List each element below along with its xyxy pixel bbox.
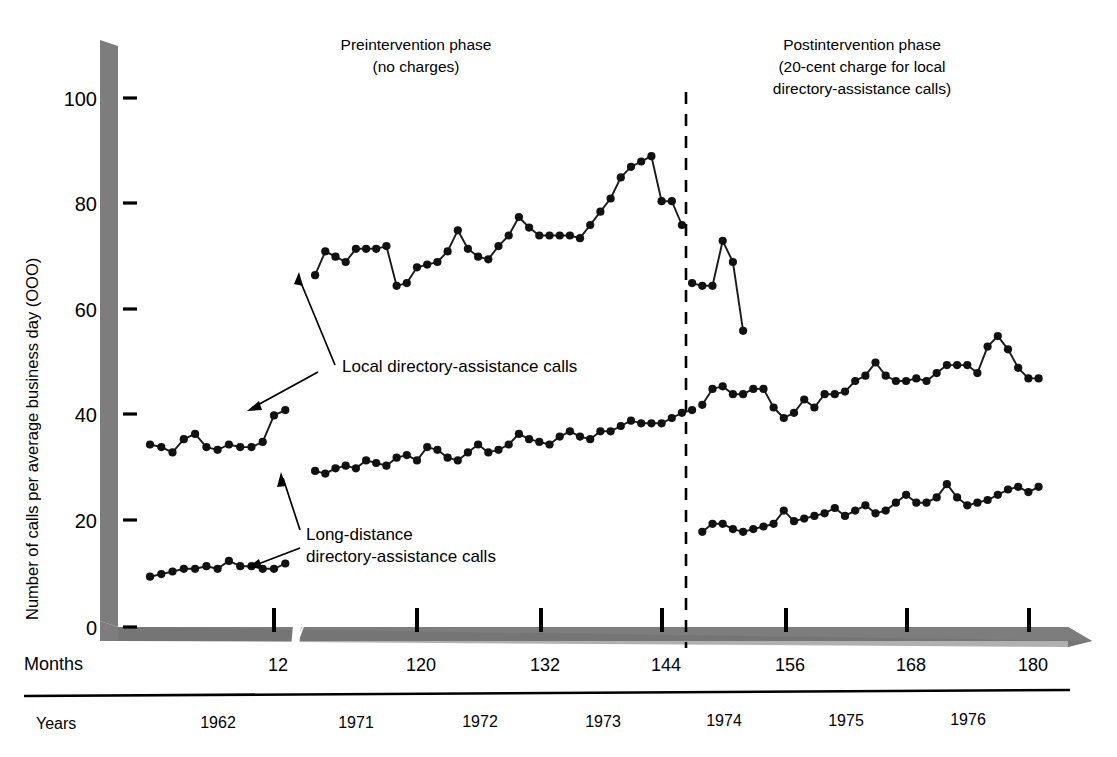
data-point <box>157 443 165 451</box>
data-point <box>851 377 859 385</box>
data-point <box>902 491 910 499</box>
data-point <box>739 327 747 335</box>
data-point <box>423 443 431 451</box>
data-point <box>331 464 339 472</box>
data-point <box>352 245 360 253</box>
long-series-label-line2: directory-assistance calls <box>306 547 496 566</box>
annotation-arrows <box>247 272 335 568</box>
series-line <box>315 156 682 286</box>
data-point <box>566 231 574 239</box>
data-point <box>556 231 564 239</box>
data-point <box>617 173 625 181</box>
data-point <box>729 390 737 398</box>
data-point <box>545 440 553 448</box>
data-point <box>545 231 553 239</box>
preintervention-title: Preintervention phase (no charges) <box>341 36 492 75</box>
data-point <box>454 226 462 234</box>
data-point <box>627 417 635 425</box>
data-point <box>678 409 686 417</box>
y-tick-label-100: 100 <box>64 88 97 110</box>
data-point <box>668 414 676 422</box>
x-axis-month-labels: 12120132144156168180 <box>268 655 1048 675</box>
long-label-arrowhead-upper <box>277 472 286 487</box>
data-point <box>505 231 513 239</box>
y-tick-label-40: 40 <box>75 404 97 426</box>
local-label-leader-upper <box>299 278 335 365</box>
data-point <box>214 446 222 454</box>
y-tick-label-60: 60 <box>75 299 97 321</box>
y-tick-label-80: 80 <box>75 193 97 215</box>
data-point <box>525 435 533 443</box>
data-point <box>576 234 584 242</box>
data-point <box>800 515 808 523</box>
data-point <box>362 245 370 253</box>
data-point <box>586 221 594 229</box>
directory-assistance-line-chart: 100 80 60 40 20 0 Number of calls per av… <box>0 0 1117 757</box>
data-point <box>810 512 818 520</box>
data-point <box>1024 488 1032 496</box>
data-point <box>973 499 981 507</box>
data-point <box>892 499 900 507</box>
data-point <box>821 390 829 398</box>
postintervention-title-line2: (20-cent charge for local <box>778 58 945 75</box>
chart-figure: 100 80 60 40 20 0 Number of calls per av… <box>0 0 1117 757</box>
month-tick-label: 180 <box>1018 655 1048 675</box>
data-point <box>892 377 900 385</box>
data-point <box>202 562 210 570</box>
data-point <box>698 528 706 536</box>
data-point <box>729 525 737 533</box>
data-point <box>270 565 278 573</box>
data-point <box>688 406 696 414</box>
data-point <box>515 213 523 221</box>
data-point <box>180 565 188 573</box>
data-point <box>831 390 839 398</box>
data-point <box>984 343 992 351</box>
data-point <box>168 567 176 575</box>
data-point <box>423 261 431 269</box>
data-point <box>494 446 502 454</box>
data-point <box>1014 483 1022 491</box>
years-row-label: Years <box>36 715 76 732</box>
data-point <box>214 565 222 573</box>
data-point <box>372 245 380 253</box>
local-series-label: Local directory-assistance calls <box>342 357 577 376</box>
data-point <box>963 501 971 509</box>
data-point <box>321 247 329 255</box>
data-point <box>247 443 255 451</box>
data-point <box>943 480 951 488</box>
data-point <box>902 377 910 385</box>
y-axis-tick-labels: 100 80 60 40 20 0 <box>64 88 97 639</box>
data-point <box>698 401 706 409</box>
month-tick-label: 168 <box>896 655 926 675</box>
data-point <box>688 279 696 287</box>
data-point <box>658 419 666 427</box>
data-point <box>413 263 421 271</box>
data-point <box>861 501 869 509</box>
data-point <box>953 493 961 501</box>
data-point <box>800 395 808 403</box>
data-point <box>202 443 210 451</box>
data-point <box>780 507 788 515</box>
data-point <box>1014 364 1022 372</box>
y-tick-label-0: 0 <box>86 617 97 639</box>
y-tick-label-20: 20 <box>75 510 97 532</box>
year-label: 1974 <box>706 712 742 729</box>
data-point <box>168 448 176 456</box>
month-tick-label: 120 <box>406 655 436 675</box>
year-label: 1962 <box>200 714 236 731</box>
data-point <box>556 433 564 441</box>
data-point <box>146 573 154 581</box>
data-point <box>270 411 278 419</box>
data-point <box>474 440 482 448</box>
local-label-arrowhead-lower <box>247 401 262 411</box>
data-point <box>790 517 798 525</box>
data-point <box>759 522 767 530</box>
data-point <box>576 433 584 441</box>
postintervention-title: Postintervention phase (20-cent charge f… <box>773 36 951 97</box>
data-point <box>311 271 319 279</box>
data-point <box>739 528 747 536</box>
data-point <box>1035 483 1043 491</box>
data-point <box>719 237 727 245</box>
data-point <box>464 245 472 253</box>
data-point <box>647 152 655 160</box>
